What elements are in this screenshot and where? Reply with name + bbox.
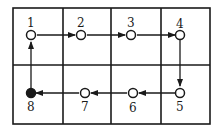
node-8 — [27, 89, 36, 98]
node-label-6: 6 — [129, 101, 137, 115]
node-label-5: 5 — [176, 100, 184, 114]
node-2 — [77, 31, 86, 40]
node-6 — [129, 89, 138, 98]
node-label-3: 3 — [127, 16, 135, 30]
node-label-4: 4 — [176, 17, 184, 31]
node-label-8: 8 — [27, 100, 35, 114]
node-label-2: 2 — [77, 16, 85, 30]
grid-cycle-diagram: 1 2 3 4 5 6 7 8 — [0, 0, 221, 131]
node-1 — [27, 31, 36, 40]
node-7 — [81, 89, 90, 98]
node-label-7: 7 — [81, 100, 89, 114]
node-label-1: 1 — [27, 16, 35, 30]
node-4 — [176, 31, 185, 40]
node-5 — [176, 89, 185, 98]
edges — [31, 35, 180, 93]
node-3 — [127, 31, 136, 40]
